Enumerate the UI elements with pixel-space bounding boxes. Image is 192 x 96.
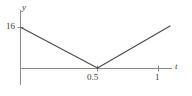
x-tick-label-0-5: 0.5 xyxy=(87,73,98,82)
y-axis-label: y xyxy=(22,3,26,12)
y-tick-label-16: 16 xyxy=(6,22,15,31)
piecewise-linear-graph-figure: y t 16 0.5 1 xyxy=(0,0,192,96)
curve-segment-ascending xyxy=(98,26,171,68)
curve-segment-descending xyxy=(21,28,98,69)
x-tick-label-1: 1 xyxy=(155,73,160,82)
x-axis-label: t xyxy=(175,62,178,71)
